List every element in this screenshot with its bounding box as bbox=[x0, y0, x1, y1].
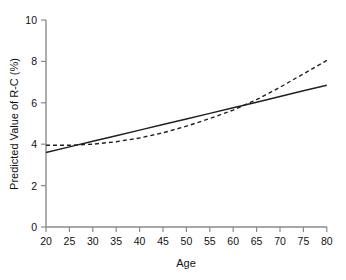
x-axis-title: Age bbox=[176, 257, 196, 269]
y-tick-label: 2 bbox=[31, 180, 37, 192]
series-line-solid bbox=[46, 85, 327, 152]
chart-figure: 10 8 6 4 2 0 20 25 30 3 bbox=[0, 0, 346, 280]
x-tick-label: 35 bbox=[110, 235, 122, 247]
x-tick-label: 25 bbox=[64, 235, 76, 247]
y-tick-label: 8 bbox=[31, 55, 37, 67]
x-tick-label: 45 bbox=[157, 235, 169, 247]
y-tick-label: 0 bbox=[31, 221, 37, 233]
y-tick-label: 4 bbox=[31, 138, 37, 150]
line-chart: 10 8 6 4 2 0 20 25 30 3 bbox=[0, 0, 346, 280]
series-line-dashed bbox=[46, 60, 327, 145]
x-tick-label: 50 bbox=[181, 235, 193, 247]
x-axis-ticks bbox=[46, 227, 327, 232]
x-tick-label: 70 bbox=[274, 235, 286, 247]
x-tick-label: 30 bbox=[87, 235, 99, 247]
y-tick-label: 6 bbox=[31, 97, 37, 109]
x-tick-label: 75 bbox=[298, 235, 310, 247]
x-axis-tick-labels: 20 25 30 35 40 45 50 55 60 65 70 75 80 bbox=[40, 235, 333, 247]
x-tick-label: 65 bbox=[251, 235, 263, 247]
y-axis-title: Predicted Value of R-C (%) bbox=[8, 58, 20, 190]
y-axis-ticks bbox=[41, 20, 46, 227]
x-tick-label: 60 bbox=[227, 235, 239, 247]
y-axis-tick-labels: 10 8 6 4 2 0 bbox=[25, 14, 37, 233]
x-tick-label: 20 bbox=[40, 235, 52, 247]
x-tick-label: 40 bbox=[134, 235, 146, 247]
x-tick-label: 80 bbox=[321, 235, 333, 247]
x-tick-label: 55 bbox=[204, 235, 216, 247]
y-tick-label: 10 bbox=[25, 14, 37, 26]
